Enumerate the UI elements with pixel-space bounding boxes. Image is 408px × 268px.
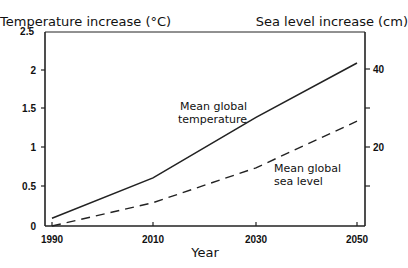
y-tick-1: 1	[30, 142, 36, 153]
y2-tick-40: 40	[373, 64, 385, 75]
plot-frame	[45, 32, 365, 226]
y-tick-2.5: 2.5	[20, 26, 34, 37]
temperature-line	[52, 63, 357, 218]
y-tick-1.5: 1.5	[22, 103, 36, 114]
y-tick-0: 0	[30, 221, 36, 232]
x-tick-1990: 1990	[41, 234, 64, 245]
chart: Temperature increase (°C) Sea level incr…	[0, 0, 408, 268]
y2-tick-20: 20	[373, 142, 385, 153]
sea-level-annotation-line2: sea level	[274, 175, 323, 188]
temperature-annotation-line1: Mean global	[180, 100, 247, 113]
right-axis-title: Sea level increase (cm)	[256, 14, 408, 29]
sea-level-annotation-line1: Mean global	[274, 162, 341, 175]
x-axis-title: Year	[190, 245, 219, 260]
x-tick-2010: 2010	[142, 234, 165, 245]
temperature-annotation-line2: temperature	[178, 113, 247, 126]
y-tick-0.5: 0.5	[22, 181, 36, 192]
x-tick-2030: 2030	[245, 234, 268, 245]
y-tick-2: 2	[30, 65, 36, 76]
x-tick-2050: 2050	[346, 234, 369, 245]
